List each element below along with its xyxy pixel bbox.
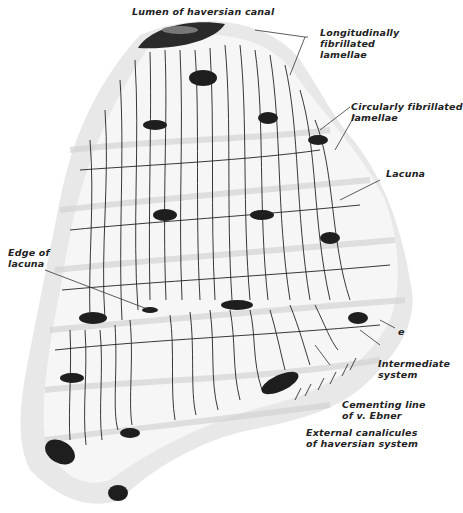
label-intermediate-system: Intermediate system (378, 358, 450, 380)
label-edge-of-lacuna: Edge of lacuna (8, 247, 50, 269)
label-lumen: Lumen of haversian canal (132, 6, 274, 17)
label-lacuna: Lacuna (386, 168, 425, 179)
label-cementing-line: Cementing line of v. Ebner (342, 399, 426, 421)
label-circular-lamellae: Circularly fibrillated lamellae (351, 101, 463, 123)
label-longitudinal-lamellae: Longitudinally fibrillated lamellae (320, 27, 399, 60)
label-e: e (398, 326, 405, 337)
label-external-canalicules: External canalicules of haversian system (306, 427, 418, 449)
